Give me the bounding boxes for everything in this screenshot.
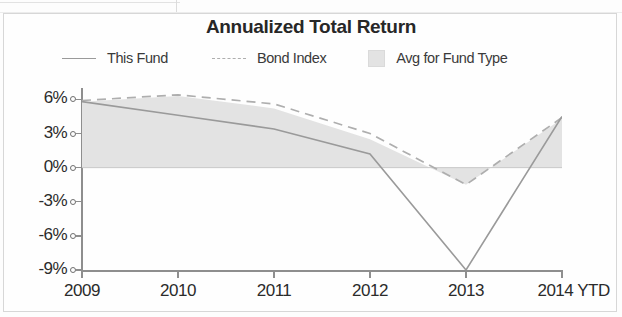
y-axis-label: -6% bbox=[5, 225, 67, 245]
y-axis-tick-marker bbox=[70, 233, 76, 239]
plot-svg bbox=[82, 88, 562, 270]
scan-artifact-line bbox=[0, 2, 180, 3]
x-axis-tick bbox=[273, 271, 274, 278]
chart-root: Annualized Total Return This Fund Bond I… bbox=[0, 0, 622, 317]
y-axis-tick-marker bbox=[70, 199, 76, 205]
y-axis-label: 6% bbox=[5, 88, 67, 108]
plot-area bbox=[82, 88, 562, 270]
x-axis-label: 2010 bbox=[160, 281, 196, 301]
y-axis-label: -3% bbox=[5, 191, 67, 211]
legend-label-this-fund: This Fund bbox=[107, 50, 168, 66]
x-axis-tick bbox=[561, 271, 562, 278]
y-axis-tick-marker bbox=[70, 267, 76, 273]
dashed-line-swatch-icon bbox=[212, 58, 246, 59]
x-axis-tick bbox=[465, 271, 466, 278]
x-axis-label: 2012 bbox=[352, 281, 388, 301]
y-axis-label: 0% bbox=[5, 157, 67, 177]
solid-line-swatch-icon bbox=[62, 58, 96, 59]
legend-item-this-fund: This Fund bbox=[62, 50, 168, 66]
x-axis-line bbox=[81, 270, 563, 272]
y-axis-label: -9% bbox=[5, 259, 67, 279]
x-axis-tick bbox=[177, 271, 178, 278]
filled-square-swatch-icon bbox=[368, 50, 385, 67]
x-axis-tick bbox=[81, 271, 82, 278]
x-axis-label: 2014 YTD bbox=[537, 281, 609, 301]
y-axis-label: 3% bbox=[5, 123, 67, 143]
y-axis-tick-marker bbox=[70, 165, 76, 171]
y-axis-tick-marker bbox=[70, 131, 76, 137]
x-axis-label: 2009 bbox=[64, 281, 100, 301]
legend-item-avg-fund-type: Avg for Fund Type bbox=[368, 50, 507, 67]
series-area-avg-for-fund-type bbox=[82, 96, 562, 185]
chart-title: Annualized Total Return bbox=[0, 16, 622, 38]
x-axis-label: 2013 bbox=[448, 281, 484, 301]
chart-legend: This Fund Bond Index Avg for Fund Type bbox=[62, 47, 562, 69]
x-axis-label: 2011 bbox=[257, 281, 292, 301]
legend-label-avg-fund-type: Avg for Fund Type bbox=[396, 50, 507, 66]
x-axis-tick bbox=[369, 271, 370, 278]
legend-label-bond-index: Bond Index bbox=[257, 50, 326, 66]
legend-item-bond-index: Bond Index bbox=[212, 50, 326, 66]
